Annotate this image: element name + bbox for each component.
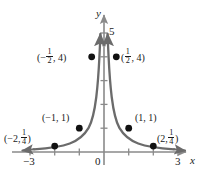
graph-figure: y x −3 0 3 5 (−12, 4) (12, 4) (−1, 1) (1… bbox=[0, 0, 202, 181]
graph-canvas bbox=[0, 0, 202, 181]
paren-open: (−2, bbox=[4, 133, 20, 144]
point-label-pos-one-1: (1, 1) bbox=[135, 113, 157, 123]
y-axis bbox=[101, 15, 108, 165]
point-label-neg-half-4: (−12, 4) bbox=[37, 48, 66, 66]
point-neg-half-4 bbox=[88, 53, 95, 60]
y-tick-label-5: 5 bbox=[109, 26, 115, 37]
x-tick-label--3: −3 bbox=[23, 156, 35, 167]
curve-left-tail-arrow bbox=[23, 149, 35, 150]
y-axis-label: y bbox=[96, 8, 101, 19]
paren-open: (− bbox=[37, 52, 46, 63]
point-neg-two-quarter bbox=[51, 143, 58, 150]
point-pos-one-1 bbox=[125, 125, 132, 132]
point-label-neg-two-quarter: (−2,14) bbox=[4, 129, 31, 147]
paren-close: , 4) bbox=[131, 52, 144, 63]
point-label-pos-half-4: (12, 4) bbox=[121, 48, 145, 66]
point-pos-half-4 bbox=[113, 53, 120, 60]
point-label-neg-one-1: (−1, 1) bbox=[42, 113, 69, 123]
paren-close: ) bbox=[28, 133, 31, 144]
x-axis-label: x bbox=[190, 155, 195, 166]
point-pos-two-quarter bbox=[150, 143, 157, 150]
fraction-one-quarter: 14 bbox=[168, 129, 174, 147]
paren-close: , 4) bbox=[53, 52, 66, 63]
point-label-pos-two-quarter: (2,14) bbox=[157, 129, 178, 147]
point-neg-one-1 bbox=[76, 125, 83, 132]
x-tick-label-0: 0 bbox=[95, 156, 101, 167]
paren-open: ( bbox=[121, 52, 124, 63]
curve-right-tail-arrow bbox=[174, 149, 185, 150]
paren-open: (2, bbox=[157, 133, 168, 144]
fraction-one-half: 12 bbox=[46, 48, 52, 66]
x-tick-label-3: 3 bbox=[175, 156, 181, 167]
paren-close: ) bbox=[175, 133, 178, 144]
fraction-one-quarter: 14 bbox=[21, 129, 27, 147]
